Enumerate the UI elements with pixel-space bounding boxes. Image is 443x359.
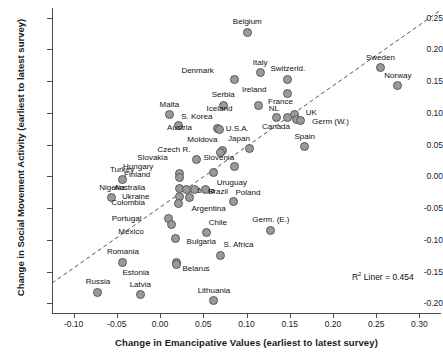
data-point-label: Japan bbox=[228, 135, 250, 143]
data-point[interactable] bbox=[229, 197, 238, 206]
data-point[interactable] bbox=[171, 234, 180, 243]
data-point[interactable] bbox=[215, 125, 224, 134]
data-point-label: Mexico bbox=[118, 228, 143, 236]
data-point-label: Chile bbox=[209, 219, 227, 227]
y-axis-line bbox=[52, 8, 53, 313]
data-point-label: Uruguay bbox=[217, 179, 247, 187]
data-point[interactable] bbox=[93, 288, 102, 297]
y-tick bbox=[47, 303, 52, 304]
y-tick bbox=[47, 176, 52, 177]
x-tick bbox=[74, 313, 75, 318]
data-point-label: Belgium bbox=[233, 18, 262, 26]
data-point-label: Estonia bbox=[122, 269, 149, 277]
data-point[interactable] bbox=[216, 251, 225, 260]
x-tick-label: 0.15 bbox=[270, 320, 310, 329]
x-tick bbox=[117, 313, 118, 318]
data-point-label: Switzerld. bbox=[270, 65, 305, 73]
x-tick-label: 0.20 bbox=[313, 320, 353, 329]
data-point-label: Malta bbox=[160, 101, 180, 109]
data-point-label: Canada bbox=[262, 123, 290, 131]
data-point-label: Belarus bbox=[182, 265, 209, 273]
y-tick bbox=[47, 113, 52, 114]
r-squared-annotation: R2 Liner = 0.454 bbox=[352, 270, 414, 282]
y-tick-label: 0.00 bbox=[399, 172, 443, 181]
data-point[interactable] bbox=[172, 260, 181, 269]
data-point-label: Ireland bbox=[242, 86, 266, 94]
y-tick-label: 0.05 bbox=[399, 141, 443, 150]
data-point-label: Sweden bbox=[366, 54, 395, 62]
data-point-label: Latvia bbox=[130, 281, 151, 289]
data-point[interactable] bbox=[296, 116, 305, 125]
data-point[interactable] bbox=[174, 199, 183, 208]
x-tick-label: 0.25 bbox=[356, 320, 396, 329]
data-point-label: Turkey bbox=[110, 166, 134, 174]
data-point-label: U.S.A. bbox=[226, 125, 249, 133]
y-tick-label: 0.20 bbox=[399, 45, 443, 54]
y-tick-label: -0.05 bbox=[399, 204, 443, 213]
data-point-label: UK bbox=[306, 109, 317, 117]
y-tick bbox=[47, 145, 52, 146]
x-tick bbox=[160, 313, 161, 318]
data-point-label: Poland bbox=[236, 189, 261, 197]
y-tick bbox=[47, 240, 52, 241]
data-point[interactable] bbox=[118, 258, 127, 267]
scatter-chart: 0.250.200.150.100.050.00-0.05-0.10-0.15-… bbox=[0, 0, 443, 359]
data-point-label: Germ. (E.) bbox=[252, 216, 289, 224]
y-axis-title: Change in Social Movement Activity (earl… bbox=[15, 0, 26, 318]
x-tick bbox=[419, 313, 420, 318]
x-tick-label: 0.10 bbox=[227, 320, 267, 329]
y-tick bbox=[47, 81, 52, 82]
data-point-label: Colombia bbox=[111, 199, 145, 207]
data-point-label: Slovakia bbox=[137, 154, 167, 162]
data-point-label: Argentina bbox=[191, 205, 225, 213]
data-point[interactable] bbox=[272, 113, 281, 122]
y-tick bbox=[47, 18, 52, 19]
data-point-label: Portugal bbox=[112, 215, 142, 223]
data-point[interactable] bbox=[175, 173, 184, 182]
data-point-label: S. Korea bbox=[181, 113, 212, 121]
x-tick-label: 0.30 bbox=[399, 320, 439, 329]
y-tick bbox=[47, 272, 52, 273]
data-point[interactable] bbox=[300, 142, 309, 151]
x-tick bbox=[333, 313, 334, 318]
data-point-label: Norway bbox=[384, 72, 411, 80]
data-point-label: Germ (W.) bbox=[312, 118, 349, 126]
x-tick bbox=[376, 313, 377, 318]
data-point-label: Italy bbox=[253, 59, 268, 67]
data-point[interactable] bbox=[230, 162, 239, 171]
x-tick-label: -0.05 bbox=[97, 320, 137, 329]
data-point-label: Moldova bbox=[187, 136, 217, 144]
x-tick-label: 0.05 bbox=[183, 320, 223, 329]
data-point[interactable] bbox=[136, 290, 145, 299]
x-tick-label: -0.10 bbox=[54, 320, 94, 329]
data-point[interactable] bbox=[245, 144, 254, 153]
x-tick bbox=[290, 313, 291, 318]
data-point-label: Russia bbox=[86, 278, 110, 286]
data-point-label: NL bbox=[269, 105, 279, 113]
y-tick-label: 0.25 bbox=[399, 14, 443, 23]
data-point-label: Austria bbox=[167, 124, 192, 132]
data-point-label: Brazil bbox=[208, 188, 228, 196]
y-tick-label: -0.20 bbox=[399, 299, 443, 308]
x-tick bbox=[247, 313, 248, 318]
data-point-label: Slovenia bbox=[203, 154, 234, 162]
x-tick-label: 0.00 bbox=[140, 320, 180, 329]
data-point-label: Lithuania bbox=[198, 287, 230, 295]
y-tick-label: 0.10 bbox=[399, 109, 443, 118]
x-axis-title: Change in Emancipative Values (earliest … bbox=[52, 337, 441, 348]
data-point-label: Denmark bbox=[181, 67, 213, 75]
data-point[interactable] bbox=[254, 101, 263, 110]
data-point-label: Spain bbox=[294, 133, 314, 141]
data-point[interactable] bbox=[243, 28, 252, 37]
data-point-label: Bulgaria bbox=[187, 238, 216, 246]
data-point-label: Romania bbox=[107, 248, 139, 256]
y-tick bbox=[47, 208, 52, 209]
data-point[interactable] bbox=[167, 220, 176, 229]
data-point-label: S. Africa bbox=[224, 241, 254, 249]
data-point-label: Serbia bbox=[212, 91, 235, 99]
y-tick-label: -0.10 bbox=[399, 236, 443, 245]
y-tick bbox=[47, 49, 52, 50]
x-tick bbox=[203, 313, 204, 318]
